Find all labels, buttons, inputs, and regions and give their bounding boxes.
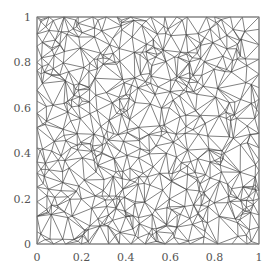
y-tick-label: 0.8 (14, 56, 32, 69)
x-tick-label: 0 (34, 251, 41, 264)
y-tick-label: 0.4 (14, 147, 32, 160)
y-tick-label: 1 (24, 11, 31, 24)
triangulation-mesh (37, 17, 259, 244)
y-tick-label: 0.2 (14, 193, 32, 206)
mesh-chart: 00.20.40.60.81 00.20.40.60.81 (0, 0, 275, 271)
x-tick-label: 0.6 (161, 251, 179, 264)
x-tick-label: 0.4 (117, 251, 135, 264)
y-axis-ticks: 00.20.40.60.81 (14, 11, 32, 251)
y-tick-label: 0.6 (14, 102, 32, 115)
y-tick-label: 0 (24, 238, 31, 251)
x-tick-label: 0.8 (206, 251, 224, 264)
x-tick-label: 0.2 (73, 251, 91, 264)
x-axis-ticks: 00.20.40.60.81 (34, 251, 263, 264)
x-tick-label: 1 (256, 251, 263, 264)
